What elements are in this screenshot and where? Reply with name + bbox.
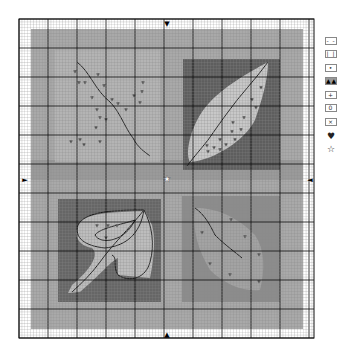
legend-item: ☆ (324, 144, 338, 155)
legend-item: • • (324, 62, 338, 73)
cross-stitch-chart: ▼▲►◄★ (0, 0, 341, 355)
legend-key-circle: 0 0 (325, 104, 337, 112)
legend-key-dash: - - (325, 37, 337, 45)
legend-item: 0 0 (324, 103, 338, 114)
center-arrow-bottom: ▲ (164, 331, 170, 339)
star-icon: ☆ (327, 144, 335, 154)
center-arrow-top: ▼ (164, 20, 170, 28)
legend-item: ♥ (324, 130, 338, 141)
legend-item: ▲▲ (324, 76, 338, 87)
heart-icon: ♥ (327, 131, 335, 141)
legend-key-dot: • • (325, 64, 337, 72)
legend-key-plus: + + (325, 91, 337, 99)
star-icon: ★ (163, 174, 171, 184)
legend-item: | | (324, 49, 338, 60)
legend-item: × × (324, 117, 338, 128)
legend-item: - - (324, 35, 338, 46)
legend-key-bar: | | (325, 50, 337, 58)
center-arrow-right: ◄ (307, 176, 313, 184)
symbol-legend: - - | | • • ▲▲ + + 0 0 × × ♥ ☆ (324, 35, 338, 157)
center-arrow-left: ► (22, 176, 28, 184)
legend-item: + + (324, 89, 338, 100)
legend-key-triangle: ▲▲ (325, 77, 337, 85)
legend-key-cross: × × (325, 118, 337, 126)
